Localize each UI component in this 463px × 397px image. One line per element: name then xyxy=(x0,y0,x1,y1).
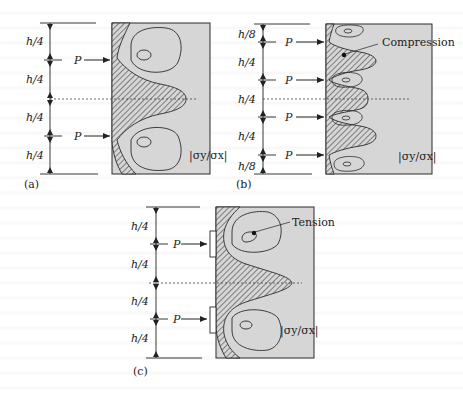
panel-a-dim-label-4: h/4 xyxy=(26,149,44,162)
panel-b-legend: |σy/σx| xyxy=(398,150,437,164)
panel-b-dim-label-1: h/8 xyxy=(238,28,256,41)
panel-c-dim-label-2: h/4 xyxy=(131,258,149,271)
panel-c-dim-label-3: h/4 xyxy=(131,295,149,308)
panel-b-load-label-4: P xyxy=(284,149,293,162)
panel-c-dim-label-1: h/4 xyxy=(131,220,149,233)
panel-b-dim-label-5: h/8 xyxy=(238,160,256,173)
panel-c-load-label-2: P xyxy=(172,313,181,326)
panel-b-load-label-2: P xyxy=(284,74,293,87)
panel-a-legend: |σy/σx| xyxy=(189,149,228,163)
panel-c-tension-label: Tension xyxy=(292,216,335,229)
panel-a-load-label-2: P xyxy=(73,130,82,143)
stress-contour-figure: h/4 h/4 h/4 h/4 P P |σy/σx| (a) h/8 h/4 … xyxy=(0,0,463,397)
panel-b-compression-point xyxy=(342,53,346,57)
panel-a-load-label-1: P xyxy=(73,54,82,67)
panel-a-dim-label-3: h/4 xyxy=(26,111,44,124)
panel-c-bearing-plate-1 xyxy=(210,231,216,257)
panel-b-dim-label-4: h/4 xyxy=(238,130,256,143)
panel-c-dim-label-4: h/4 xyxy=(131,332,149,345)
panel-a-dim-label-1: h/4 xyxy=(26,35,44,48)
panel-c-legend: |σy/σx| xyxy=(280,324,319,338)
panel-c-tension-point xyxy=(252,231,256,235)
panel-b-load-label-1: P xyxy=(284,36,293,49)
panel-a-caption: (a) xyxy=(24,178,39,191)
panel-b-compression-label: Compression xyxy=(382,36,455,49)
panel-b-dim-label-3: h/4 xyxy=(238,93,256,106)
panel-b-load-label-3: P xyxy=(284,111,293,124)
panel-c-bearing-plate-2 xyxy=(210,307,216,333)
panel-c-load-label-1: P xyxy=(172,238,181,251)
panel-a xyxy=(40,23,210,174)
panel-c-caption: (c) xyxy=(133,365,148,378)
panel-a-dim-label-2: h/4 xyxy=(26,73,44,86)
panel-b-caption: (b) xyxy=(236,178,252,191)
panel-b-dim-label-2: h/4 xyxy=(238,56,256,69)
